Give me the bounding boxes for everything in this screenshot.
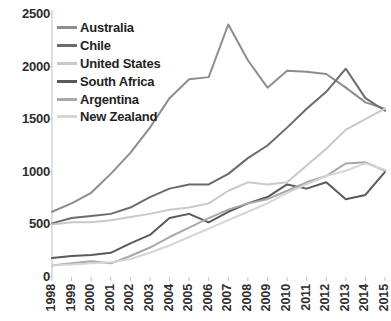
legend-item-south-africa[interactable]: South Africa bbox=[57, 72, 160, 90]
x-axis-tick-label: 2009 bbox=[260, 284, 273, 311]
legend-item-chile[interactable]: Chile bbox=[57, 37, 160, 55]
x-axis-tick-label: 2002 bbox=[123, 284, 136, 311]
x-axis-tick-label: 2000 bbox=[84, 284, 97, 311]
x-axis-tick-label: 2008 bbox=[241, 284, 254, 311]
legend-item-label: Argentina bbox=[80, 93, 139, 106]
x-axis-tick-label: 2001 bbox=[104, 284, 117, 311]
x-axis-tick-label: 2015 bbox=[378, 284, 391, 311]
legend-line-swatch-icon bbox=[57, 44, 77, 47]
legend-item-label: United States bbox=[80, 57, 160, 70]
x-axis-tick-label: 2013 bbox=[339, 284, 352, 311]
x-axis-tick-label: 2003 bbox=[143, 284, 156, 311]
x-axis-tick-label: 2006 bbox=[202, 284, 215, 311]
x-axis-tick-label: 2012 bbox=[319, 284, 332, 311]
legend-line-swatch-icon bbox=[57, 98, 77, 101]
line-chart: 05001000150020002500 1998199920002001200… bbox=[0, 0, 391, 321]
x-axis-tick-label: 2014 bbox=[358, 284, 371, 311]
x-axis-tick-label: 2007 bbox=[221, 284, 234, 311]
x-axis-tick-label: 2004 bbox=[163, 284, 176, 311]
x-axis-tick-label: 2010 bbox=[280, 284, 293, 311]
legend-item-new-zealand[interactable]: New Zealand bbox=[57, 108, 160, 126]
x-axis-tick-label: 2005 bbox=[182, 284, 195, 311]
legend-line-swatch-icon bbox=[57, 26, 77, 29]
legend-item-argentina[interactable]: Argentina bbox=[57, 90, 160, 108]
legend-item-label: South Africa bbox=[80, 75, 154, 88]
legend-line-swatch-icon bbox=[57, 115, 77, 118]
x-axis-tick-label: 1998 bbox=[45, 284, 58, 311]
legend-item-united-states[interactable]: United States bbox=[57, 55, 160, 73]
legend-line-swatch-icon bbox=[57, 80, 77, 83]
legend-line-swatch-icon bbox=[57, 62, 77, 65]
x-axis-tick-label: 2011 bbox=[300, 284, 313, 311]
chart-legend: AustraliaChileUnited StatesSouth AfricaA… bbox=[57, 19, 160, 126]
legend-item-label: New Zealand bbox=[80, 110, 157, 123]
legend-item-label: Australia bbox=[80, 21, 134, 34]
x-axis-tick-label: 1999 bbox=[65, 284, 78, 311]
legend-item-label: Chile bbox=[80, 39, 111, 52]
legend-item-australia[interactable]: Australia bbox=[57, 19, 160, 37]
